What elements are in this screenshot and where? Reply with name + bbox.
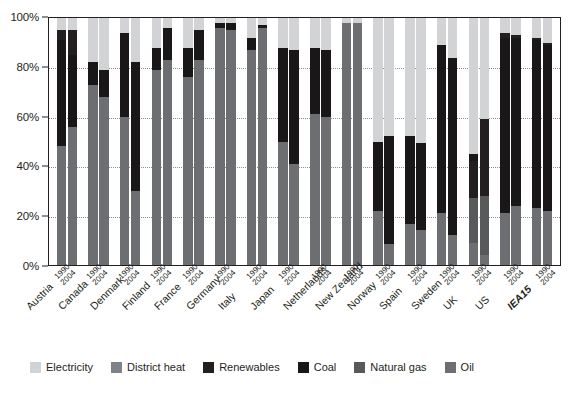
bar-segment-oil (448, 235, 458, 265)
stacked-bar[interactable] (57, 18, 67, 265)
bar-segment-oil (247, 50, 257, 265)
stacked-bar[interactable] (384, 18, 394, 265)
bar-segment-electricity (278, 18, 288, 48)
x-label-group: 19902004Canada (80, 266, 112, 361)
bar-segment-electricity (437, 18, 447, 45)
bar-segment-oil (88, 85, 98, 265)
stacked-bar[interactable] (258, 18, 268, 265)
bar-segment-oil (321, 117, 331, 265)
bar-segment-coal (310, 48, 320, 115)
bar-segment-electricity (258, 18, 268, 25)
stacked-bar[interactable] (226, 18, 236, 265)
bar-segment-oil (289, 164, 299, 265)
bar-segment-renewables (68, 30, 78, 55)
bar-segment-electricity (57, 18, 67, 30)
country-bar-group (114, 18, 146, 265)
bar-segment-electricity (152, 18, 162, 48)
stacked-bar[interactable] (373, 18, 383, 265)
stacked-bar[interactable] (99, 18, 109, 265)
bar-segment-natural-gas (469, 198, 479, 242)
x-label-group: 19902004Spain (401, 266, 433, 361)
legend-swatch-icon (111, 362, 122, 373)
legend-label: Coal (314, 361, 337, 373)
stacked-bar[interactable] (131, 18, 141, 265)
stacked-bar[interactable] (342, 18, 352, 265)
x-label-group: 19902004Italy (240, 266, 272, 361)
y-tick-label: 0% (23, 260, 39, 272)
bar-segment-coal (448, 58, 458, 236)
stacked-bar[interactable] (532, 18, 542, 265)
stacked-bar[interactable] (278, 18, 288, 265)
legend-label: District heat (127, 361, 185, 373)
stacked-bar[interactable] (152, 18, 162, 265)
stacked-bar[interactable] (88, 18, 98, 265)
stacked-bar[interactable] (416, 18, 426, 265)
country-bar-group (431, 18, 463, 265)
legend-item-renewables[interactable]: Renewables (203, 361, 280, 373)
x-label-group: 19902004Japan (272, 266, 304, 361)
stacked-bar[interactable] (289, 18, 299, 265)
legend-label: Natural gas (370, 361, 426, 373)
bar-segment-oil (215, 28, 225, 265)
stacked-bar[interactable] (405, 18, 415, 265)
stacked-bar[interactable] (183, 18, 193, 265)
bar-segment-coal (247, 38, 257, 50)
bar-segment-oil (131, 191, 141, 265)
x-label-group: 19902004US (497, 266, 529, 361)
stacked-bar[interactable] (321, 18, 331, 265)
bar-segment-coal (416, 143, 426, 230)
bar-segment-electricity (99, 18, 109, 70)
legend-swatch-icon (203, 362, 214, 373)
stacked-bar[interactable] (215, 18, 225, 265)
country-bar-group (178, 18, 210, 265)
stacked-bar-chart: 100%80%60%40%20%0% 19902004Austria199020… (0, 0, 573, 394)
bar-segment-coal (131, 62, 141, 190)
bar-segment-coal (68, 55, 78, 127)
bar-segment-electricity (163, 18, 173, 28)
x-label-group: 19902004France (176, 266, 208, 361)
stacked-bar[interactable] (480, 18, 490, 265)
legend-item-oil[interactable]: Oil (445, 361, 474, 373)
bar-segment-coal (278, 48, 288, 142)
bar-segment-coal (99, 70, 109, 97)
stacked-bar[interactable] (448, 18, 458, 265)
legend-item-coal[interactable]: Coal (298, 361, 337, 373)
bar-segment-electricity (194, 18, 204, 30)
stacked-bar[interactable] (247, 18, 257, 265)
bar-segment-electricity (480, 18, 490, 119)
stacked-bar[interactable] (469, 18, 479, 265)
legend-item-natural-gas[interactable]: Natural gas (354, 361, 426, 373)
bar-segment-coal (373, 142, 383, 211)
stacked-bar[interactable] (511, 18, 521, 265)
bar-segment-electricity (500, 18, 510, 33)
x-label-group: 19902004Norway (369, 266, 401, 361)
stacked-bar[interactable] (163, 18, 173, 265)
chart-legend: ElectricityDistrict heatRenewablesCoalNa… (30, 357, 570, 377)
bar-segment-coal (321, 50, 331, 117)
stacked-bar[interactable] (437, 18, 447, 265)
country-bar-group (241, 18, 273, 265)
country-bar-group (209, 18, 241, 265)
bar-segment-oil (511, 206, 521, 265)
x-label-group: 19902004New Zealand (337, 266, 369, 361)
y-tick-label: 20% (17, 210, 39, 222)
bar-segment-coal (226, 23, 236, 30)
bar-segment-coal (194, 30, 204, 60)
stacked-bar[interactable] (310, 18, 320, 265)
legend-swatch-icon (30, 362, 41, 373)
stacked-bar[interactable] (500, 18, 510, 265)
bar-segment-coal (163, 28, 173, 60)
country-bar-group (146, 18, 178, 265)
legend-item-electricity[interactable]: Electricity (30, 361, 93, 373)
stacked-bar[interactable] (353, 18, 363, 265)
country-bar-group (336, 18, 368, 265)
bar-segment-oil (183, 77, 193, 265)
bar-segment-electricity (183, 18, 193, 48)
stacked-bar[interactable] (543, 18, 553, 265)
stacked-bar[interactable] (68, 18, 78, 265)
bar-segment-oil (152, 70, 162, 265)
stacked-bar[interactable] (194, 18, 204, 265)
stacked-bar[interactable] (120, 18, 130, 265)
bar-segment-electricity (416, 18, 426, 143)
legend-item-district-heat[interactable]: District heat (111, 361, 185, 373)
